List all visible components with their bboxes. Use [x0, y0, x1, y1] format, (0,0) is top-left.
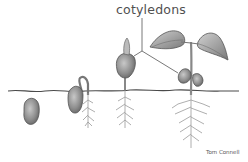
illustrator-credit: Tom Connell	[206, 149, 240, 155]
cotyledons-label: cotyledons	[116, 2, 186, 17]
stage-4-young-plant	[150, 31, 228, 148]
diagram-canvas	[0, 0, 248, 162]
stage-3-seedling	[116, 38, 135, 128]
stage-2-germinating	[68, 77, 95, 128]
stage-1-seed	[24, 98, 39, 124]
soil-line	[8, 90, 239, 92]
